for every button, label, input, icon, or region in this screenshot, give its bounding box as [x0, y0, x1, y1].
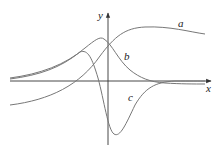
curve-a: [10, 27, 205, 105]
x-axis-label: x: [205, 82, 211, 94]
curve-c: [10, 51, 205, 134]
label-a: a: [178, 17, 184, 29]
function-graph-diagram: a b c y x: [0, 0, 221, 153]
y-axis-label: y: [97, 9, 103, 21]
curve-b: [10, 38, 205, 84]
label-b: b: [124, 50, 130, 62]
label-c: c: [128, 91, 133, 103]
